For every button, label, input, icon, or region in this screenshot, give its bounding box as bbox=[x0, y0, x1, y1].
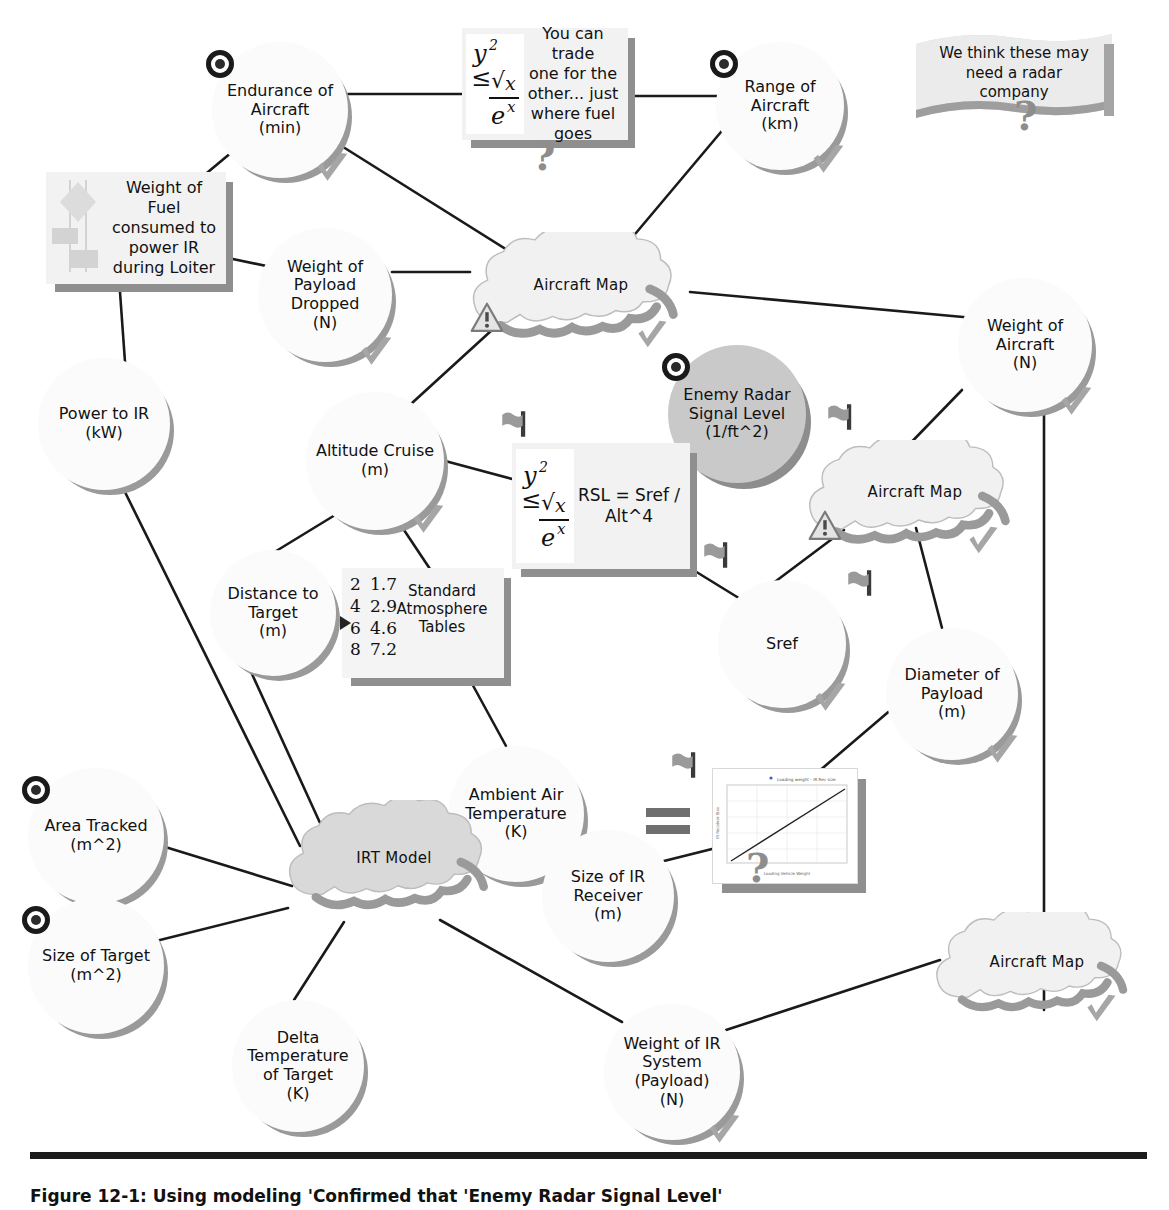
svg-text:x: x bbox=[557, 520, 566, 538]
equation-icon: y 2 ≤ √ x e x bbox=[516, 449, 574, 563]
question-mark-icon: ? bbox=[746, 844, 769, 891]
edge-weightir-mapbot bbox=[726, 960, 940, 1030]
note-trade_note[interactable]: y 2 ≤ √ x e x You can tradeone for theot… bbox=[462, 28, 628, 140]
cloud-aircraft_map_bot[interactable]: Aircraft Map bbox=[918, 912, 1156, 1016]
figure-caption: Figure 12-1: Using modeling 'Confirmed t… bbox=[30, 1186, 1147, 1210]
svg-text:≤: ≤ bbox=[471, 64, 491, 92]
node-label: Altitude Cruise(m) bbox=[310, 442, 440, 479]
process-flow-icon bbox=[50, 176, 110, 285]
svg-text:Loading weight - IR Rec size: Loading weight - IR Rec size bbox=[777, 777, 836, 782]
node-label: Sref bbox=[760, 635, 804, 654]
node-label: Endurance ofAircraft(min) bbox=[221, 82, 339, 138]
node-label: Diameter ofPayload(m) bbox=[898, 666, 1005, 722]
equation-icon: y 2 ≤ √ x e x bbox=[466, 34, 524, 134]
flag-icon bbox=[824, 400, 858, 434]
diagram-canvas: Figure 12-1: Using modeling 'Confirmed t… bbox=[0, 0, 1169, 1210]
svg-text:x: x bbox=[555, 494, 566, 516]
table-row: 87.2 bbox=[350, 639, 397, 661]
svg-text:e: e bbox=[541, 524, 555, 552]
table-title: StandardAtmosphereTables bbox=[386, 582, 498, 636]
check-icon bbox=[635, 320, 669, 354]
node-label: DeltaTemperatureof Target(K) bbox=[241, 1029, 354, 1103]
check-icon bbox=[1084, 994, 1118, 1028]
svg-text:e: e bbox=[491, 102, 505, 130]
cloud-irt_model[interactable]: IRT Model bbox=[270, 800, 518, 920]
question-mark-icon: ? bbox=[532, 132, 555, 179]
node-label: Range ofAircraft(km) bbox=[738, 78, 821, 134]
node-sref[interactable]: Sref bbox=[718, 580, 846, 708]
node-altitude[interactable]: Altitude Cruise(m) bbox=[306, 392, 444, 530]
note-text: You can tradeone for theother... justwhe… bbox=[518, 18, 628, 150]
node-label: Weight ofAircraft(N) bbox=[981, 317, 1069, 373]
node-label: Weight of IRSystem(Payload)(N) bbox=[617, 1035, 726, 1109]
note-text: RSL = Sref /Alt^4 bbox=[570, 479, 688, 534]
target-icon bbox=[22, 906, 50, 934]
flag-icon bbox=[498, 407, 532, 441]
table-icon-standard_atmosphere_tables[interactable]: 21.742.964.687.2 StandardAtmosphereTable… bbox=[342, 568, 504, 678]
table-pointer-icon bbox=[340, 616, 351, 630]
edge-deltatemp-irt bbox=[294, 922, 344, 1000]
flag-icon bbox=[844, 566, 878, 600]
node-delta_temp[interactable]: DeltaTemperatureof Target(K) bbox=[232, 1000, 364, 1132]
svg-text:2: 2 bbox=[488, 37, 498, 53]
node-label: Weight ofPayloadDropped(N) bbox=[281, 258, 369, 332]
edge-altitude-rsl bbox=[434, 458, 516, 480]
target-icon bbox=[710, 50, 738, 78]
warning-icon bbox=[808, 510, 842, 540]
node-label: Power to IR(kW) bbox=[53, 405, 155, 442]
svg-text:√: √ bbox=[541, 490, 556, 515]
svg-text:x: x bbox=[505, 72, 516, 94]
edge-map-altitude bbox=[400, 330, 492, 414]
svg-text:√: √ bbox=[491, 68, 506, 93]
node-label: Size of Target(m^2) bbox=[36, 947, 156, 984]
node-weight_ir_sys[interactable]: Weight of IRSystem(Payload)(N) bbox=[604, 1004, 740, 1140]
plot-thumbnail-ir_size_plot[interactable]: Loading weight - IR Rec size Loading Veh… bbox=[712, 768, 858, 884]
node-size_ir_rcvr[interactable]: Size of IRReceiver(m) bbox=[542, 830, 674, 962]
flag-icon bbox=[700, 538, 734, 572]
edge-table-ambient bbox=[470, 680, 506, 746]
note-rsl_note[interactable]: y 2 ≤ √ x e x RSL = Sref /Alt^4 bbox=[512, 443, 690, 569]
target-icon bbox=[206, 50, 234, 78]
flag-icon bbox=[668, 748, 702, 782]
cloud-label: Aircraft Map bbox=[918, 953, 1156, 971]
edge-rsl-sref bbox=[690, 568, 742, 600]
edge-plotnote-sizeir bbox=[660, 848, 716, 862]
target-icon bbox=[22, 776, 50, 804]
svg-text:≤: ≤ bbox=[521, 486, 541, 514]
figure-rule bbox=[30, 1152, 1147, 1159]
edge-sizetarget-irt bbox=[152, 908, 288, 942]
cloud-label: Aircraft Map bbox=[452, 276, 710, 294]
svg-text:x: x bbox=[507, 98, 516, 116]
node-label: Area Tracked(m^2) bbox=[38, 817, 153, 854]
node-label: Enemy RadarSignal Level(1/ft^2) bbox=[677, 386, 796, 442]
node-label: Distance toTarget(m) bbox=[221, 585, 324, 641]
cloud-label: IRT Model bbox=[270, 849, 518, 867]
equals-icon bbox=[646, 808, 690, 842]
node-weight_aircraft[interactable]: Weight ofAircraft(N) bbox=[958, 278, 1092, 412]
cloud-label: Aircraft Map bbox=[790, 483, 1040, 501]
node-distance[interactable]: Distance toTarget(m) bbox=[210, 550, 336, 676]
svg-text:Loading Vehicle Weight: Loading Vehicle Weight bbox=[764, 871, 811, 876]
warning-icon bbox=[470, 302, 504, 332]
svg-text:IR Receiver Size: IR Receiver Size bbox=[715, 806, 720, 839]
node-diam_payload[interactable]: Diameter ofPayload(m) bbox=[886, 628, 1018, 760]
target-icon bbox=[662, 353, 690, 381]
check-icon bbox=[966, 526, 1000, 560]
node-label: Size of IRReceiver(m) bbox=[565, 868, 651, 924]
note-text: Weight of Fuelconsumed topower IRduring … bbox=[102, 172, 226, 284]
note-fuel_note[interactable]: Weight of Fuelconsumed topower IRduring … bbox=[46, 172, 226, 284]
node-payload_dropped[interactable]: Weight ofPayloadDropped(N) bbox=[258, 228, 392, 362]
svg-text:2: 2 bbox=[538, 459, 548, 475]
question-mark-icon: ? bbox=[1014, 92, 1037, 139]
edge-map-weightaircraft bbox=[690, 292, 974, 318]
node-power_ir[interactable]: Power to IR(kW) bbox=[38, 358, 170, 490]
